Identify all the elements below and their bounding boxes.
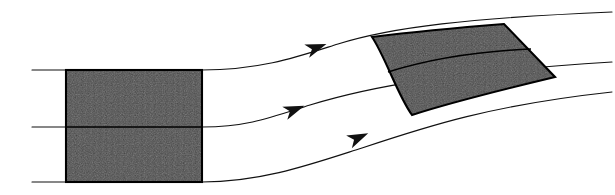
undeformed-element-body [66, 70, 202, 182]
figure-root: Deformation of a fluid element along str… [0, 0, 615, 195]
undeformed-fluid-element [66, 70, 202, 182]
fluid-deformation-diagram [0, 0, 615, 195]
